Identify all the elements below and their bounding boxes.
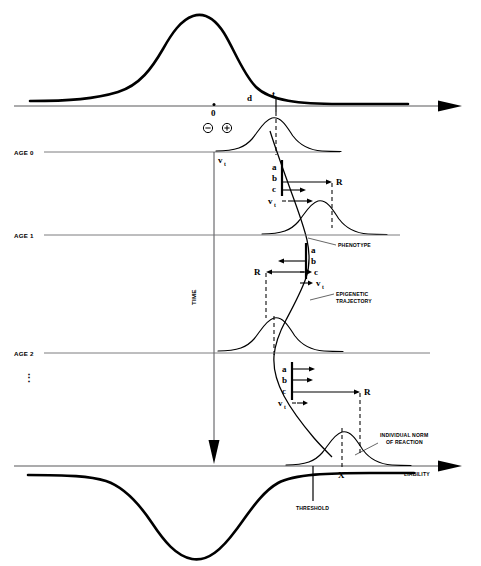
cluster-2-label-a: a — [282, 364, 287, 374]
epigenetic-trajectory-leader-line — [310, 294, 334, 300]
time-axis-arrowhead — [209, 440, 220, 464]
cluster-1-label-a: a — [311, 245, 316, 255]
time-axis-label: TIME — [190, 289, 197, 305]
liability-axis-arrowhead — [438, 461, 462, 472]
phenotype-label: PHENOTYPE — [338, 242, 371, 248]
cluster-0-label-v: v — [268, 196, 273, 206]
deviation-label: d — [247, 93, 252, 103]
negative-sign-icon — [203, 123, 212, 132]
threshold-label: THRESHOLD — [296, 505, 329, 511]
epigenetic-trajectory-label-line2: TRAJECTORY — [336, 298, 372, 304]
cluster-2-label-b: b — [282, 375, 287, 385]
norm-of-reaction-label-line1: INDIVIDUAL NORM — [380, 432, 428, 438]
cluster-0-label-c: c — [272, 184, 276, 194]
cluster-2-label-v-sub: t — [284, 404, 286, 410]
cluster-1-label-c: c — [314, 267, 318, 277]
cluster-1-label-b: b — [311, 256, 316, 266]
norm-of-reaction-leader-line — [355, 443, 378, 455]
cluster-2-label-R: R — [364, 387, 371, 397]
age-row-label-0: AGE 0 — [14, 149, 34, 156]
age-0-distribution-curve — [216, 118, 341, 152]
cluster-2-label-c: c — [282, 386, 286, 396]
age-row-label-1: AGE 1 — [14, 232, 34, 239]
epigenetic-trajectory-curve — [270, 131, 332, 457]
positive-sign-icon — [222, 123, 231, 132]
cluster-0-label-b: b — [272, 173, 277, 183]
target-label: t — [272, 89, 275, 99]
age-2-distribution-curve — [218, 318, 343, 352]
cluster-2-label-v: v — [278, 398, 283, 408]
temperament-axis-arrowhead — [438, 101, 462, 112]
vector-cluster-age-1: a b c v t R — [254, 243, 324, 318]
vector-cluster-age-0: a b c v t R — [268, 160, 343, 228]
population-liability-curve — [28, 473, 414, 559]
cluster-0-label-a: a — [272, 162, 277, 172]
age-row-label-2: AGE 2 — [14, 350, 34, 357]
population-temperament-curve — [30, 15, 408, 104]
continuation-ellipsis: ⋮ — [24, 372, 34, 383]
vt-label-time-axis: v — [218, 155, 223, 165]
cluster-1-label-R: R — [254, 267, 261, 277]
origin-dot — [213, 103, 216, 106]
epigenetic-trajectory-diagram: 0 d t AGE 0 TIME v t a b c v t — [0, 0, 481, 566]
epigenetic-trajectory-label-line1: EPIGENETIC — [336, 291, 369, 297]
liability-marker-label: X — [338, 470, 345, 480]
cluster-0-label-R: R — [336, 177, 343, 187]
norm-of-reaction-label-line2: OF REACTION — [386, 439, 423, 445]
cluster-1-label-v: v — [316, 278, 321, 288]
cluster-1-label-v-sub: t — [322, 284, 324, 290]
origin-label: 0 — [211, 108, 216, 118]
phenotype-leader-line — [308, 238, 336, 245]
age-1-distribution-curve — [262, 201, 387, 235]
vt-subscript-time-axis: t — [224, 161, 226, 167]
cluster-0-label-v-sub: t — [274, 202, 276, 208]
